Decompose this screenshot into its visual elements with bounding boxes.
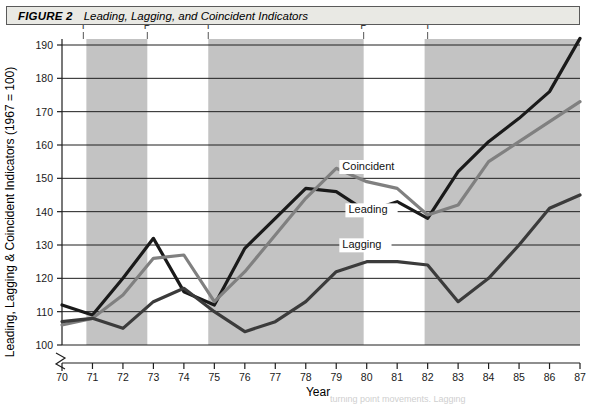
x-axis-tick-label: 83 <box>452 371 464 383</box>
figure-container: FIGURE 2 Leading, Lagging, and Coinciden… <box>0 0 592 405</box>
cycle-marker-label-t: T <box>424 25 431 31</box>
x-axis-tick-label: 87 <box>574 371 586 383</box>
cycle-marker-label-p: P <box>360 25 367 31</box>
x-axis-tick-label: 86 <box>544 371 556 383</box>
y-axis-tick-label: 140 <box>35 206 53 218</box>
shaded-band-2 <box>208 39 363 345</box>
figure-caption-text: turning point movements. Lagging <box>330 396 466 404</box>
y-axis-tick-label: 160 <box>35 139 53 151</box>
x-axis-tick-label: 74 <box>178 371 190 383</box>
x-axis-tick-label: 85 <box>513 371 525 383</box>
figure-header-bar: FIGURE 2 Leading, Lagging, and Coinciden… <box>6 6 580 25</box>
x-axis-tick-label: 78 <box>300 371 312 383</box>
x-axis-tick-label: 79 <box>330 371 342 383</box>
x-axis-tick-label: 77 <box>269 371 281 383</box>
x-axis-tick-label: 80 <box>361 371 373 383</box>
x-axis-tick-label: 75 <box>209 371 221 383</box>
y-axis-tick-label: 110 <box>36 306 53 318</box>
x-axis-tick-label: 70 <box>56 371 68 383</box>
y-axis-tick-label: 190 <box>35 39 53 51</box>
x-axis-tick-label: 71 <box>87 371 99 383</box>
x-axis-tick-label: 76 <box>239 371 251 383</box>
x-axis-tick-label: 72 <box>117 371 129 383</box>
figure-caption-strip: turning point movements. Lagging <box>0 396 592 405</box>
x-axis: 707172737475767778798081828384858687 <box>56 363 586 383</box>
y-axis-break-symbol <box>56 353 65 369</box>
figure-title: Leading, Lagging, and Coincident Indicat… <box>84 10 308 22</box>
y-axis-tick-label: 150 <box>35 172 53 184</box>
series-label-lagging: Lagging <box>342 238 381 250</box>
y-axis-tick-label: 130 <box>35 239 53 251</box>
cycle-turning-point-markers: TPTPT <box>80 25 431 39</box>
shaded-band-3 <box>425 39 580 345</box>
y-axis-tick-label: 170 <box>35 106 53 118</box>
y-axis-tick-label: 100 <box>35 339 53 351</box>
cycle-marker-label-p: P <box>144 25 151 31</box>
x-axis-tick-label: 84 <box>483 371 495 383</box>
x-axis-tick-label: 73 <box>148 371 160 383</box>
x-axis-tick-label: 81 <box>391 371 403 383</box>
series-label-coincident: Coincident <box>342 160 394 172</box>
x-axis-tick-label: 82 <box>422 371 434 383</box>
series-label-leading: Leading <box>348 203 387 215</box>
cycle-marker-label-t: T <box>80 25 87 31</box>
y-axis-title: Leading, Lagging & Coincident Indicators… <box>3 67 17 358</box>
series-inline-labels: LeadingCoincidentLagging <box>339 160 411 252</box>
chart-area: 100110120130140150160170180190 707172737… <box>0 25 592 405</box>
figure-number-label: FIGURE 2 <box>18 10 73 22</box>
y-axis-tick-label: 180 <box>35 72 53 84</box>
cycle-marker-label-t: T <box>205 25 212 31</box>
y-axis-tick-label: 120 <box>35 272 53 284</box>
indicators-line-chart: 100110120130140150160170180190 707172737… <box>0 25 592 405</box>
